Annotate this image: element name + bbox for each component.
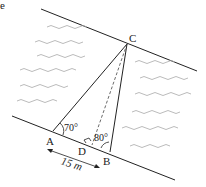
right-angle-marker	[84, 138, 91, 143]
angle-label-B: 80°	[94, 132, 108, 143]
river-diagram: e 70° 80° C A D B 15 m	[0, 0, 206, 187]
bottom-bank-line	[12, 116, 175, 180]
point-label-B: B	[103, 155, 110, 167]
water-waves-right	[122, 61, 191, 148]
side-BC	[110, 44, 127, 152]
distance-label: 15 m	[60, 155, 84, 173]
angle-label-A: 70°	[64, 122, 78, 133]
corner-mark: e	[0, 0, 5, 11]
top-bank-line	[41, 9, 197, 71]
point-label-D: D	[78, 145, 86, 157]
altitude-CD	[92, 44, 127, 145]
point-label-C: C	[129, 32, 136, 44]
point-label-A: A	[46, 135, 54, 147]
water-waves-left	[17, 26, 87, 103]
